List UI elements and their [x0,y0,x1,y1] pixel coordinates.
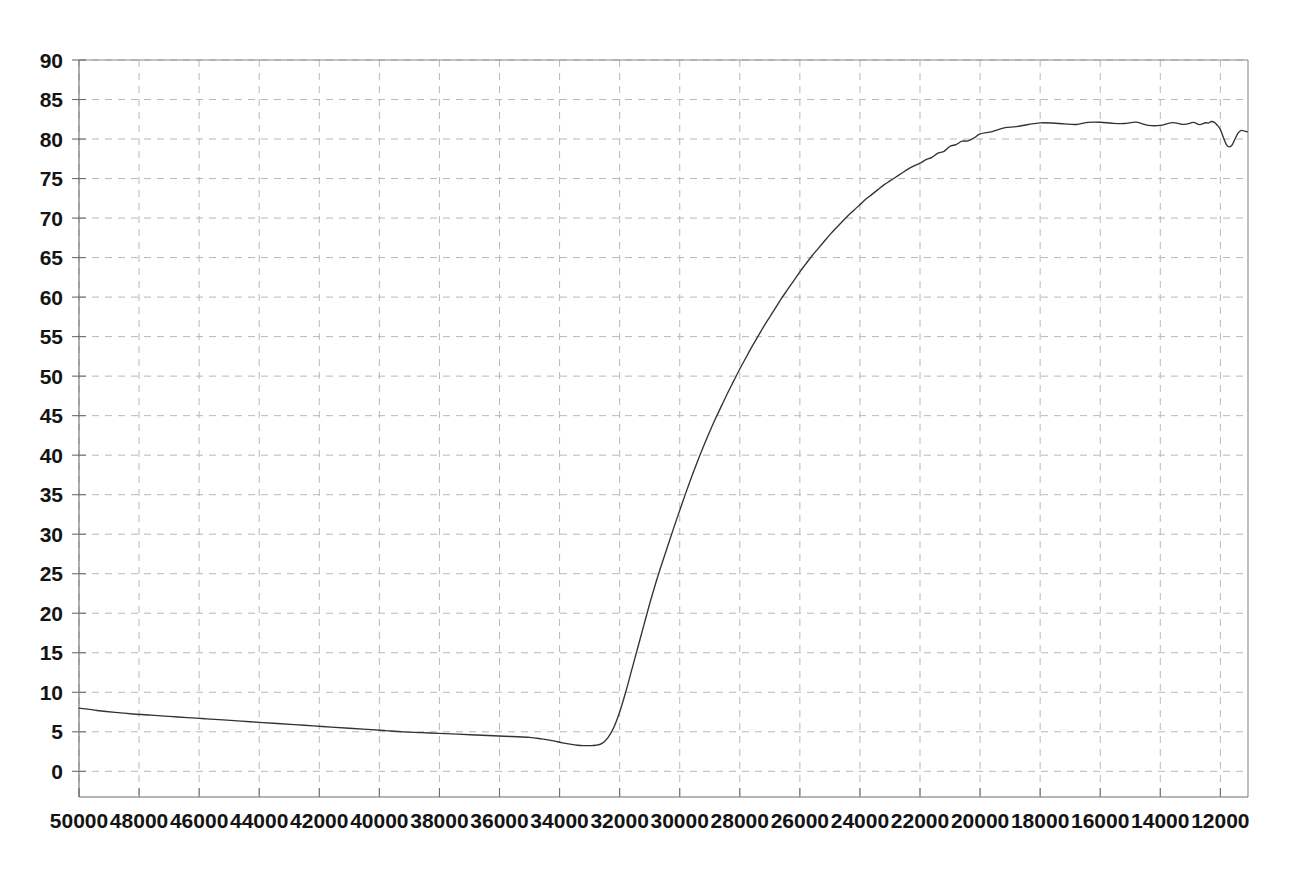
y-tick-label: 20 [40,602,63,625]
y-tick-label: 50 [40,365,63,388]
y-tick-label: 90 [40,49,63,72]
y-tick-label: 25 [40,562,64,585]
x-tick-label: 28000 [711,809,769,832]
y-tick-label: 35 [40,483,64,506]
y-tick-label: 45 [40,404,64,427]
line-chart-svg: 5000048000460004400042000400003800036000… [0,0,1298,876]
x-tick-label: 48000 [110,809,168,832]
x-tick-label: 14000 [1131,809,1189,832]
y-tick-label: 40 [40,444,63,467]
y-tick-label: 65 [40,246,64,269]
x-tick-label: 44000 [230,809,288,832]
y-tick-label: 80 [40,128,63,151]
y-tick-label: 60 [40,286,63,309]
x-tick-label: 32000 [590,809,648,832]
x-tick-label: 42000 [290,809,348,832]
y-tick-label: 10 [40,681,63,704]
y-tick-label: 85 [40,88,64,111]
chart-background [0,0,1298,876]
x-tick-label: 30000 [651,809,709,832]
y-tick-label: 70 [40,207,63,230]
y-tick-label: 55 [40,325,64,348]
y-tick-label: 5 [51,720,63,743]
x-tick-label: 34000 [530,809,588,832]
x-tick-label: 22000 [891,809,949,832]
y-tick-label: 0 [51,760,63,783]
x-tick-label: 20000 [951,809,1009,832]
x-tick-label: 36000 [470,809,528,832]
x-tick-label: 24000 [831,809,889,832]
y-tick-label: 30 [40,523,63,546]
y-tick-label: 15 [40,641,64,664]
x-tick-label: 12000 [1191,809,1249,832]
x-tick-label: 18000 [1011,809,1069,832]
chart-container: 5000048000460004400042000400003800036000… [0,0,1298,876]
x-tick-label: 38000 [410,809,468,832]
x-tick-label: 46000 [170,809,228,832]
x-tick-label: 16000 [1071,809,1129,832]
x-tick-label: 50000 [50,809,108,832]
x-tick-label: 26000 [771,809,829,832]
x-tick-label: 40000 [350,809,408,832]
y-tick-label: 75 [40,167,64,190]
